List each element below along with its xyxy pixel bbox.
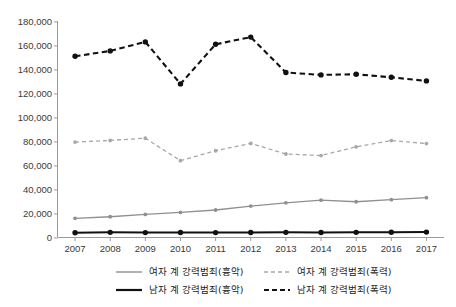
series-female_heinous	[73, 196, 428, 220]
data-point	[424, 78, 429, 83]
x-tick-label: 2013	[275, 243, 296, 254]
data-point	[389, 230, 394, 235]
x-tick-label: 2010	[170, 243, 191, 254]
data-point	[143, 230, 148, 235]
x-tick-label: 2017	[416, 243, 437, 254]
data-point	[249, 204, 253, 208]
data-point	[389, 139, 393, 143]
y-axis-tick-marks	[54, 22, 58, 238]
legend-item-female_heinous[interactable]: 여자 계 강력범죄(흉악)	[116, 266, 243, 277]
data-point	[248, 230, 253, 235]
legend-label-male_heinous: 남자 계 강력범죄(흉악)	[149, 284, 243, 295]
data-point	[425, 142, 429, 146]
x-tick-label: 2014	[310, 243, 331, 254]
data-point	[73, 216, 77, 220]
series-female_violence	[73, 136, 428, 162]
data-point	[353, 230, 358, 235]
y-tick-label: 140,000	[18, 64, 52, 75]
data-point	[283, 70, 288, 75]
data-point	[248, 34, 253, 39]
data-point	[318, 72, 323, 77]
x-tick-label: 2007	[64, 243, 85, 254]
series-line-female_heinous	[75, 198, 426, 219]
y-tick-label: 100,000	[18, 112, 52, 123]
y-tick-label: 40,000	[23, 184, 52, 195]
x-tick-label: 2008	[100, 243, 121, 254]
data-point	[424, 229, 429, 234]
y-tick-label: 20,000	[23, 208, 52, 219]
data-point	[108, 48, 113, 53]
data-point	[319, 198, 323, 202]
line-chart: 020,00040,00060,00080,000100,000120,0001…	[0, 0, 456, 307]
data-point	[108, 215, 112, 219]
data-point	[143, 136, 147, 140]
data-point	[425, 196, 429, 200]
legend-label-female_violence: 여자 계 강력범죄(폭력)	[297, 266, 391, 277]
y-tick-label: 160,000	[18, 40, 52, 51]
x-tick-label: 2009	[135, 243, 156, 254]
legend-item-male_heinous[interactable]: 남자 계 강력범죄(흉악)	[116, 284, 243, 295]
y-axis-tick-labels: 020,00040,00060,00080,000100,000120,0001…	[18, 16, 52, 243]
legend-item-female_violence[interactable]: 여자 계 강력범죄(폭력)	[264, 266, 391, 277]
data-point	[72, 54, 77, 59]
data-series-layer	[72, 34, 429, 235]
y-tick-label: 60,000	[23, 160, 52, 171]
data-point	[284, 201, 288, 205]
x-tick-label: 2011	[205, 243, 225, 254]
data-point	[214, 208, 218, 212]
data-point	[353, 72, 358, 77]
data-point	[213, 230, 218, 235]
data-point	[284, 152, 288, 156]
legend-item-male_violence[interactable]: 남자 계 강력범죄(폭력)	[264, 284, 391, 295]
y-tick-label: 80,000	[23, 136, 52, 147]
data-point	[214, 149, 218, 153]
data-point	[108, 139, 112, 143]
data-point	[178, 230, 183, 235]
data-point	[108, 230, 113, 235]
data-point	[283, 230, 288, 235]
data-point	[143, 213, 147, 217]
data-point	[249, 142, 253, 146]
data-point	[354, 200, 358, 204]
chart-canvas: 020,00040,00060,00080,000100,000120,0001…	[0, 0, 456, 307]
x-tick-label: 2012	[240, 243, 261, 254]
data-point	[318, 230, 323, 235]
data-point	[179, 211, 183, 215]
data-point	[143, 39, 148, 44]
legend-label-female_heinous: 여자 계 강력범죄(흉악)	[149, 266, 243, 277]
data-point	[389, 198, 393, 202]
x-tick-label: 2016	[381, 243, 402, 254]
data-point	[72, 230, 77, 235]
y-tick-label: 180,000	[18, 16, 52, 27]
series-male_violence	[72, 34, 429, 86]
y-tick-label: 0	[47, 232, 52, 243]
data-point	[389, 75, 394, 80]
x-axis-tick-marks	[75, 238, 426, 242]
chart-legend: 여자 계 강력범죄(흉악)여자 계 강력범죄(폭력)남자 계 강력범죄(흉악)남…	[116, 266, 391, 295]
y-tick-label: 120,000	[18, 88, 52, 99]
data-point	[179, 159, 183, 163]
series-male_heinous	[72, 229, 429, 235]
series-line-male_violence	[75, 37, 426, 84]
data-point	[73, 140, 77, 144]
data-point	[213, 42, 218, 47]
x-axis-tick-labels: 2007200820092010201120122013201420152016…	[64, 243, 437, 254]
data-point	[319, 154, 323, 158]
x-tick-label: 2015	[346, 243, 367, 254]
data-point	[354, 145, 358, 149]
legend-label-male_violence: 남자 계 강력범죄(폭력)	[297, 284, 391, 295]
data-point	[178, 81, 183, 86]
